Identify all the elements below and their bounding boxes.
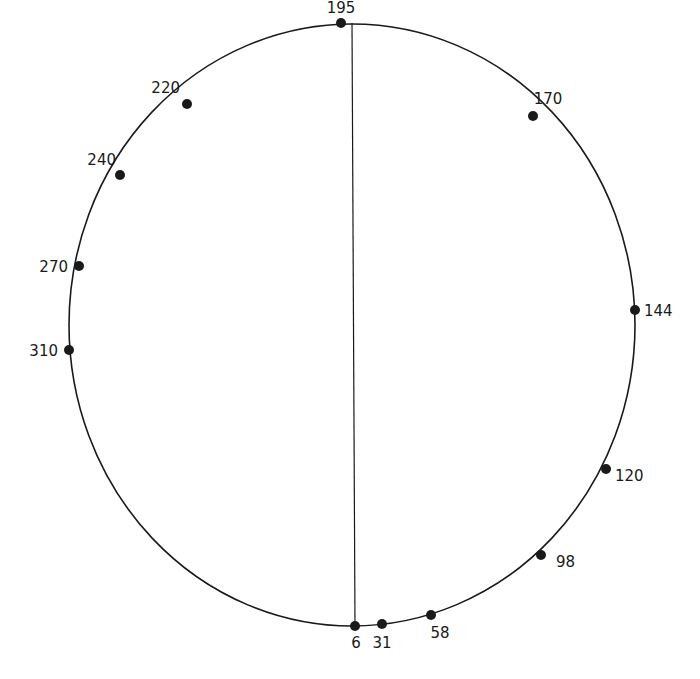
marker-label: 240 — [87, 151, 116, 169]
vertical-divider-line — [352, 23, 355, 626]
marker-dot — [601, 464, 611, 474]
marker-label: 310 — [29, 342, 58, 360]
marker-label: 144 — [644, 302, 673, 320]
marker-label: 270 — [39, 258, 68, 276]
marker-point: 98 — [536, 550, 575, 571]
circle-diagram: 1951701441209858316310270240220 — [0, 0, 700, 679]
marker-point: 6 — [350, 621, 361, 652]
marker-point: 144 — [630, 302, 673, 320]
marker-label: 195 — [327, 0, 356, 17]
marker-dot — [528, 111, 538, 121]
marker-dot — [350, 621, 360, 631]
marker-dot — [115, 170, 125, 180]
marker-dot — [64, 345, 74, 355]
marker-point: 170 — [528, 90, 562, 121]
marker-dot — [336, 18, 346, 28]
marker-label: 6 — [351, 634, 361, 652]
marker-label: 58 — [430, 624, 449, 642]
marker-point: 270 — [39, 258, 84, 276]
marker-point: 120 — [601, 464, 644, 485]
marker-point: 310 — [29, 342, 74, 360]
marker-point: 220 — [151, 79, 192, 109]
marker-dot — [630, 305, 640, 315]
marker-dot — [426, 610, 436, 620]
marker-dot — [182, 99, 192, 109]
marker-label: 31 — [372, 634, 391, 652]
marker-dot — [536, 550, 546, 560]
marker-label: 120 — [615, 467, 644, 485]
marker-dot — [74, 261, 84, 271]
marker-points: 1951701441209858316310270240220 — [29, 0, 672, 652]
marker-label: 220 — [151, 79, 180, 97]
marker-point: 58 — [426, 610, 450, 642]
marker-dot — [377, 619, 387, 629]
marker-label: 170 — [534, 90, 563, 108]
marker-label: 98 — [556, 553, 575, 571]
